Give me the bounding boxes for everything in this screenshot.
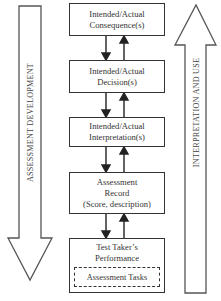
consequences-box: Intended/Actual Consequence(s) (69, 3, 165, 36)
assessment-record-box: Assessment Record (Score, description) (69, 172, 165, 214)
box-line: Record (105, 188, 130, 199)
box-line: Interpretation(s) (89, 132, 145, 143)
box-line: (Score, description) (83, 199, 151, 210)
box-line: Intended/Actual (89, 9, 144, 20)
box-line: Test Taker’s (96, 242, 138, 253)
assessment-tasks-box: Assessment Tasks (74, 267, 160, 287)
box-line: Assessment (97, 177, 138, 188)
test-taker-performance-box: Test Taker’s Performance Assessment Task… (69, 238, 165, 293)
decisions-box: Intended/Actual Decision(s) (69, 60, 165, 93)
box-line: Intended/Actual (89, 66, 144, 77)
box-line: Performance (95, 253, 139, 264)
box-line: Decision(s) (97, 77, 137, 88)
interpretation-use-label: INTERPRETATION AND USE (192, 52, 201, 174)
box-line: Intended/Actual (89, 121, 144, 132)
interpretations-box: Intended/Actual Interpretation(s) (69, 117, 165, 147)
assessment-development-label: ASSESSMENT DEVELOPMENT (26, 60, 35, 186)
box-line: Consequence(s) (90, 20, 145, 31)
